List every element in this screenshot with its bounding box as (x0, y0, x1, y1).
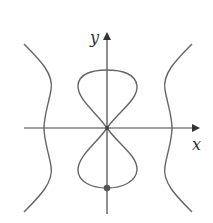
x-axis-label: x (192, 135, 201, 154)
curve-diagram: y x (0, 0, 213, 223)
y-axis-label: y (89, 28, 100, 47)
origin-point (105, 126, 109, 130)
marked-point (104, 185, 110, 191)
